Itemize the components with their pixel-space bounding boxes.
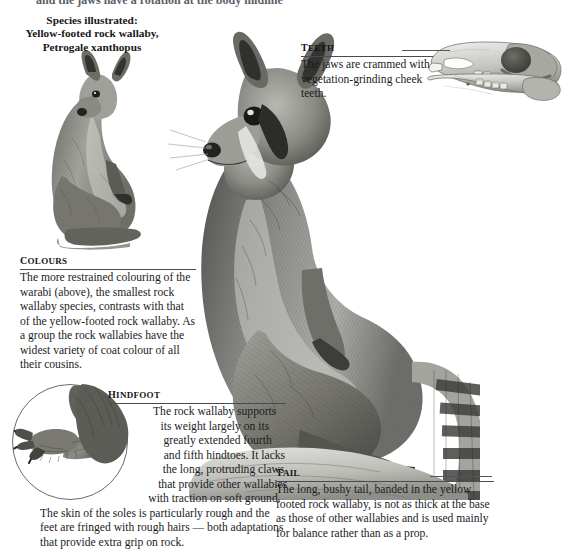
wallaby-skull-illustration [424,30,568,108]
section-teeth: Teeth The jaws are crammed with vegetati… [301,39,433,102]
section-colours-body: The more restrained colouring of the war… [20,271,196,373]
clipped-previous-line-text: and the jaws have a rotation at the body… [36,0,283,7]
section-hindfoot-rule [108,403,286,404]
species-caption: Species illustrated: Yellow-footed rock … [10,14,174,54]
warabi-rock-wallaby-illustration [38,48,154,253]
section-colours-heading: Colours [20,252,196,269]
clipped-previous-line: and the jaws have a rotation at the body… [0,0,568,7]
section-colours: Colours The more restrained colouring of… [20,252,196,373]
species-caption-line-2: Yellow-footed rock wallaby, [10,27,174,40]
section-hindfoot: Hindfoot The rock wallaby supports its w… [40,386,288,550]
section-hindfoot-heading: Hindfoot [108,386,286,403]
species-caption-line-1: Species illustrated: [10,14,174,27]
section-tail-heading: Tail [276,464,494,481]
section-teeth-body: The jaws are crammed with vegetation-gri… [301,58,433,102]
section-teeth-rule [301,56,433,57]
section-tail-body: The long, bushy tail, banded in the yell… [276,483,494,541]
teeth-leader-line [402,50,450,51]
species-caption-line-3: Petrogale xanthopus [10,41,174,54]
section-tail-rule [276,481,494,482]
tail-leader-line [430,476,492,477]
section-colours-rule [20,269,196,270]
section-teeth-heading: Teeth [301,39,433,56]
